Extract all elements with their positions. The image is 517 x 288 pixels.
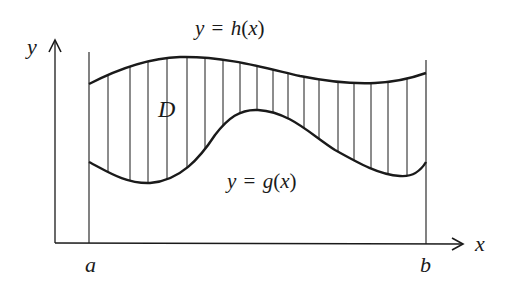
y-axis — [49, 40, 61, 243]
left-bound-label: a — [85, 252, 96, 277]
region-label: D — [157, 96, 175, 122]
y-axis-label: y — [25, 34, 37, 59]
right-bound-label: b — [420, 252, 431, 277]
x-axis — [55, 238, 463, 250]
lower-curve-label: y = g(x) — [225, 169, 297, 193]
x-axis-label: x — [474, 231, 485, 256]
region-diagram: y x a b D y = h(x) y = g(x) — [0, 0, 517, 288]
upper-curve-label: y = h(x) — [193, 16, 265, 40]
